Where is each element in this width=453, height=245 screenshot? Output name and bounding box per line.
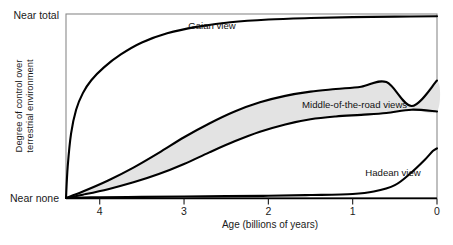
chart-svg: 43210 Near total Near none Degree of con…	[0, 0, 453, 245]
y-axis-title-line2: terrestrial environment	[24, 59, 35, 153]
x-tick-label-2: 2	[265, 205, 271, 217]
chart-figure: 43210 Near total Near none Degree of con…	[0, 0, 453, 245]
annotation-middle-of-the-road-views: Middle-of-the-road views	[302, 99, 407, 110]
x-tick-label-3: 3	[181, 205, 187, 217]
x-tick-label-0: 0	[434, 205, 440, 217]
annotation-gaian-view: Gaian view	[188, 20, 236, 31]
x-tick-label-4: 4	[97, 205, 103, 217]
y-tick-label-top: Near total	[13, 9, 59, 21]
y-tick-label-bottom: Near none	[10, 192, 59, 204]
y-axis-title-line1: Degree of control over	[13, 60, 24, 153]
x-tick-label-1: 1	[350, 205, 356, 217]
x-axis-title: Age (billions of years)	[222, 219, 318, 230]
annotation-hadean-view: Hadean view	[365, 167, 421, 178]
